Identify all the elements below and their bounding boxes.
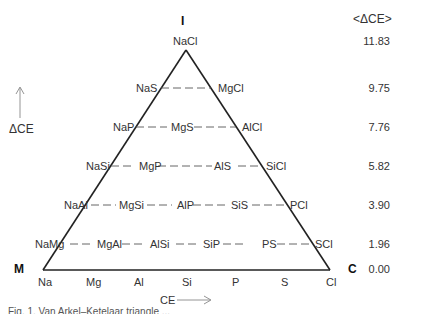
compound-label: PCl — [290, 199, 308, 211]
compound-label: NaMg — [35, 238, 64, 250]
element-label: Na — [38, 276, 52, 288]
compound-label: NaSi — [86, 160, 110, 172]
compound-label: MgAl — [97, 238, 122, 250]
element-label: Si — [182, 276, 192, 288]
triangle-right-edge — [186, 50, 330, 270]
delta-ce-value: 5.82 — [340, 160, 390, 172]
compound-label: NaP — [113, 121, 134, 133]
compound-label: NaS — [136, 82, 157, 94]
triangle-left-edge — [43, 50, 186, 270]
figure-caption: Fig. 1. Van Arkel–Ketelaar triangle ... — [8, 306, 170, 314]
corner-label-metallic: M — [14, 262, 24, 276]
compound-label: MgP — [139, 160, 162, 172]
corner-label-ionic: I — [181, 14, 184, 28]
compound-label: NaAl — [64, 199, 88, 211]
compound-label: MgS — [171, 121, 194, 133]
delta-ce-value: 9.75 — [340, 82, 390, 94]
delta-ce-value: 11.83 — [340, 35, 390, 47]
ce-arrow-icon — [177, 296, 211, 304]
compound-label: SCl — [315, 238, 333, 250]
compound-label: AlS — [214, 160, 231, 172]
element-label: Mg — [86, 276, 101, 288]
element-label: S — [281, 276, 288, 288]
delta-ce-value: 7.76 — [340, 121, 390, 133]
compound-label: MgSi — [119, 199, 144, 211]
delta-ce-value: 3.90 — [340, 199, 390, 211]
delta-ce-value: 1.96 — [340, 238, 390, 250]
compound-label: AlP — [177, 199, 194, 211]
compound-label: NaCl — [173, 35, 197, 47]
compound-label: SiCl — [266, 160, 286, 172]
compound-label: MgCl — [218, 82, 244, 94]
y-axis-label: ΔCE — [9, 122, 34, 136]
x-axis-label: CE — [160, 294, 175, 306]
compound-label: AlCl — [242, 121, 262, 133]
compound-label: SiS — [231, 199, 248, 211]
delta-ce-header: <ΔCE> — [353, 12, 392, 26]
element-label: Al — [134, 276, 144, 288]
compound-label: SiP — [203, 238, 220, 250]
delta-ce-value: 0.00 — [340, 263, 390, 275]
delta-ce-arrow-icon — [16, 87, 24, 118]
compound-label: PS — [262, 238, 277, 250]
element-label: P — [232, 276, 239, 288]
element-label: Cl — [326, 276, 336, 288]
compound-label: AlSi — [150, 238, 170, 250]
